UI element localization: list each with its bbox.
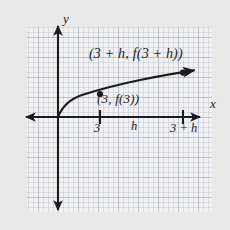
point-label-lower: (3, f(3)) <box>97 92 139 105</box>
x-axis-label: x <box>210 97 216 110</box>
graph-figure: (3 + h, f(3 + h)) (3, f(3)) 3 h 3 + h x … <box>0 0 230 230</box>
interval-label-h: h <box>131 120 137 133</box>
point-label-upper: (3 + h, f(3 + h)) <box>89 47 183 61</box>
x-tick-label-3-plus-h: 3 + h <box>170 122 197 135</box>
y-axis-label: y <box>63 12 69 25</box>
plot-canvas <box>0 0 230 230</box>
point-marker-3-plus-h <box>180 70 186 76</box>
x-tick-label-3: 3 <box>94 122 100 135</box>
